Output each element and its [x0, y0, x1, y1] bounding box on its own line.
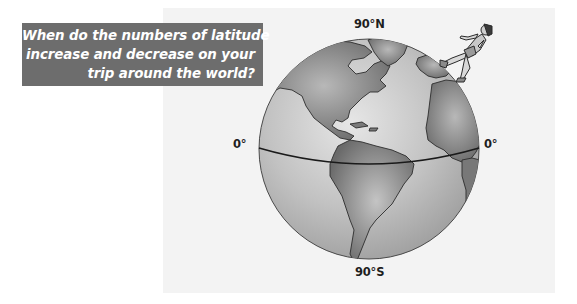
- globe-illustration: [0, 0, 577, 304]
- equator-east-label: 0°: [484, 137, 497, 151]
- north-pole-label: 90°N: [354, 17, 385, 31]
- equator-west-label: 0°: [233, 137, 246, 151]
- south-pole-label: 90°S: [355, 265, 384, 279]
- globe-icon: [258, 36, 484, 262]
